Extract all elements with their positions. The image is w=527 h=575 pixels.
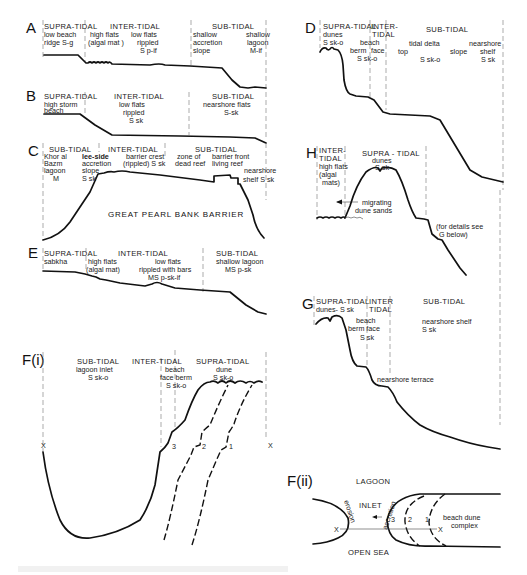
panel-b: B SUPRA-TIDAL INTER-TIDAL SUB-TIDAL high… bbox=[26, 87, 266, 143]
panel-f-ii: F(ii) LAGOON OPEN SEA INLET beach dune c… bbox=[287, 472, 500, 557]
panel-d-label: D bbox=[305, 19, 316, 36]
note: G below) bbox=[439, 230, 468, 239]
note: mats) bbox=[322, 178, 340, 187]
profile-line-stage-3 bbox=[43, 381, 262, 538]
panel-a-label: A bbox=[26, 19, 36, 36]
note: S sk-o bbox=[166, 381, 186, 390]
panel-h: H INTER- TIDAL SUPRA - TIDAL high flats … bbox=[306, 144, 483, 275]
figure-caption-cutoff bbox=[18, 566, 288, 572]
note: nearshore terrace bbox=[377, 375, 434, 384]
lagoon-label: LAGOON bbox=[356, 477, 390, 486]
panel-e: E SUPRA-TIDAL INTER-TIDAL SUB-TIDAL sabk… bbox=[28, 244, 266, 314]
note: nearshore bbox=[244, 166, 276, 175]
note: tidal delta bbox=[409, 39, 440, 48]
note: S sk bbox=[422, 325, 436, 334]
open-sea-label: OPEN SEA bbox=[348, 548, 390, 557]
note: berm face bbox=[348, 324, 380, 333]
note: dune sands bbox=[355, 206, 393, 215]
zone-sub-tidal: SUB-TIDAL bbox=[423, 297, 465, 306]
note: sabkha bbox=[44, 257, 67, 266]
note: M bbox=[53, 174, 59, 183]
note: slope bbox=[193, 46, 210, 55]
barrier-name: GREAT PEARL BANK BARRIER bbox=[108, 210, 244, 219]
note: MS p-sk-if bbox=[148, 273, 180, 282]
inlet-label: INLET bbox=[359, 501, 382, 510]
stage-marker: 2 bbox=[202, 442, 206, 451]
panel-g-label: G bbox=[302, 295, 314, 312]
note: M-if bbox=[250, 46, 262, 55]
note: MS p-sk bbox=[225, 265, 252, 274]
profile-line-stage-2 bbox=[164, 385, 228, 540]
zone-inter-tidal: TIDAL bbox=[369, 305, 392, 314]
note: (algal mat) bbox=[86, 265, 120, 274]
inlet-arrow-icon bbox=[372, 515, 382, 519]
section-marker-x: X bbox=[41, 441, 46, 450]
stage-marker: 3 bbox=[391, 515, 395, 524]
note: S sk-o bbox=[323, 38, 343, 47]
coastal-profiles-diagram: A SUPRA-TIDAL INTER-TIDAL SUB-TIDAL low … bbox=[0, 0, 527, 575]
note: dunes- S sk bbox=[316, 305, 354, 314]
section-marker-x: X bbox=[268, 441, 273, 450]
panel-e-label: E bbox=[28, 244, 38, 261]
note: slope bbox=[450, 47, 467, 56]
note: top bbox=[398, 47, 408, 56]
note: shelf S sk bbox=[243, 175, 275, 184]
panel-h-label: H bbox=[306, 144, 317, 161]
panel-f-i-label: F(i) bbox=[22, 351, 45, 368]
note: S-sk bbox=[224, 108, 239, 117]
zone-sub-tidal: SUB-TIDAL bbox=[426, 25, 468, 34]
note: S sk-o bbox=[357, 54, 377, 63]
panel-c: C SUB-TIDAL INTER-TIDAL SUB-TIDAL Khor a… bbox=[28, 142, 276, 240]
panel-f-ii-label: F(ii) bbox=[287, 472, 313, 489]
profile-line bbox=[44, 114, 266, 143]
eroding-shore-line bbox=[313, 499, 349, 544]
panel-b-label: B bbox=[26, 87, 36, 104]
stage-marker: 1 bbox=[229, 442, 233, 451]
note: dead reef bbox=[175, 159, 205, 168]
stage-marker: 3 bbox=[172, 442, 176, 451]
note: complex bbox=[451, 521, 478, 530]
note: S sk bbox=[360, 333, 374, 342]
note: ridge S-g bbox=[44, 38, 73, 47]
section-marker-x: X bbox=[438, 525, 443, 534]
note: (algal mat ) bbox=[88, 38, 124, 47]
profile-line bbox=[43, 171, 264, 240]
panel-f-i: F(i) SUB-TIDAL INTER-TIDAL SUPRA-TIDAL l… bbox=[22, 350, 273, 545]
profile-line bbox=[44, 55, 266, 88]
algal-flats-line bbox=[345, 217, 363, 219]
stage-marker: 1 bbox=[425, 515, 429, 524]
panel-a: A SUPRA-TIDAL INTER-TIDAL SUB-TIDAL low … bbox=[26, 19, 271, 92]
migrating-arrow-icon bbox=[336, 200, 358, 205]
profile-line-stage-1 bbox=[192, 385, 252, 545]
note: S sk bbox=[481, 55, 495, 64]
erosion-label: erosion bbox=[342, 499, 358, 524]
note: S sk-o bbox=[420, 55, 440, 64]
section-marker-x: X bbox=[334, 525, 339, 534]
stage-marker: 2 bbox=[408, 515, 412, 524]
note: S sk-o bbox=[88, 373, 108, 382]
note: living reef bbox=[212, 159, 243, 168]
note: S sk bbox=[129, 116, 143, 125]
note: S p-if bbox=[140, 46, 157, 55]
note: (rippled) S sk bbox=[123, 159, 166, 168]
accretion-label: accretion bbox=[380, 500, 398, 531]
panel-c-label: C bbox=[28, 142, 39, 159]
